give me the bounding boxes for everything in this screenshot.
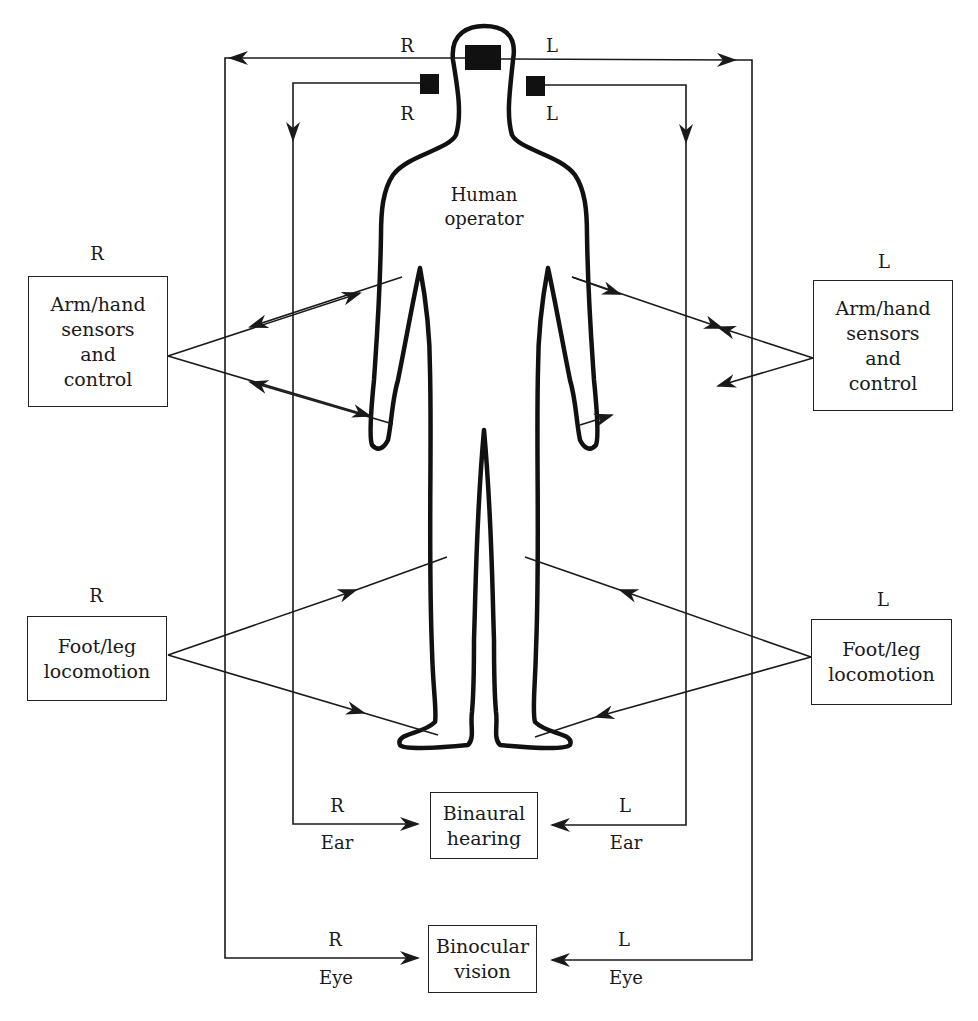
ear-sensor-right-block xyxy=(420,74,439,94)
foot-right-lines xyxy=(168,557,447,735)
arm-left-line-3: and xyxy=(835,346,930,371)
ear-right-label: R xyxy=(400,104,414,124)
ear-left-label: L xyxy=(546,104,558,124)
vision-left-sub-label: Eye xyxy=(609,968,643,988)
arm-left-side-label: L xyxy=(878,252,890,272)
diagram-lines xyxy=(0,0,978,1021)
foot-right-line-2: locomotion xyxy=(44,659,150,684)
vision-left-side-label: L xyxy=(618,930,630,950)
arm-left-box: Arm/hand sensors and control xyxy=(813,280,953,411)
vision-right-side-label: R xyxy=(328,930,342,950)
arm-right-lines xyxy=(168,277,402,424)
arm-left-line-1: Arm/hand xyxy=(835,296,930,321)
arm-right-line-4: control xyxy=(50,367,145,392)
eye-left-label: L xyxy=(546,36,558,56)
hearing-left-side-label: L xyxy=(619,796,631,816)
ear-sensor-left-block xyxy=(526,76,545,96)
human-silhouette xyxy=(371,26,598,748)
foot-right-side-label: R xyxy=(89,586,103,606)
arm-right-line-2: sensors xyxy=(50,317,145,342)
arm-left-line-2: sensors xyxy=(835,321,930,346)
binaural-hearing-box: Binaural hearing xyxy=(430,792,538,859)
vision-line-1: Binocular xyxy=(436,934,529,959)
eye-right-label: R xyxy=(400,36,414,56)
binocular-vision-box: Binocular vision xyxy=(428,925,537,993)
arm-right-line-3: and xyxy=(50,342,145,367)
foot-right-box: Foot/leg locomotion xyxy=(27,616,167,701)
arm-right-side-label: R xyxy=(90,244,104,264)
arm-left-line-4: control xyxy=(835,371,930,396)
hearing-right-sub-label: Ear xyxy=(321,833,353,853)
foot-left-side-label: L xyxy=(877,590,889,610)
human-operator-line1: Human xyxy=(444,183,523,207)
foot-right-line-1: Foot/leg xyxy=(44,634,150,659)
foot-left-line-1: Foot/leg xyxy=(828,637,934,662)
vision-right-sub-label: Eye xyxy=(319,968,353,988)
eye-sensor-block xyxy=(465,45,501,70)
human-operator-line2: operator xyxy=(444,207,523,231)
human-operator-label: Human operator xyxy=(444,183,523,231)
hearing-right-side-label: R xyxy=(330,796,344,816)
arm-left-lines xyxy=(572,277,813,425)
foot-left-lines xyxy=(525,557,811,737)
arm-right-box: Arm/hand sensors and control xyxy=(28,276,168,407)
hearing-left-sub-label: Ear xyxy=(610,833,642,853)
hearing-line-1: Binaural xyxy=(443,801,525,826)
hearing-line-2: hearing xyxy=(443,826,525,851)
vision-line-2: vision xyxy=(436,959,529,984)
foot-left-box: Foot/leg locomotion xyxy=(811,619,952,705)
foot-left-line-2: locomotion xyxy=(828,662,934,687)
arm-right-line-1: Arm/hand xyxy=(50,292,145,317)
